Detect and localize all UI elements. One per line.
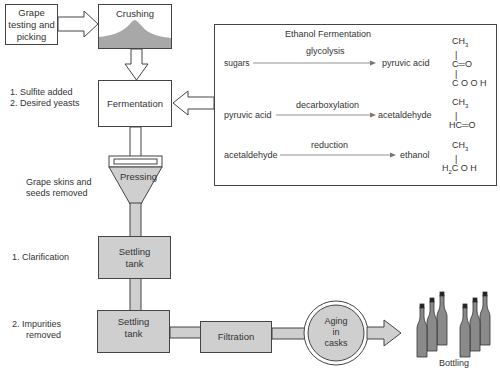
reaction2-substrate: pyruvic acid bbox=[224, 110, 272, 121]
arrow-ethanol-to-fermentation bbox=[173, 91, 214, 115]
grape-testing-box: Grape testing and picking bbox=[5, 4, 58, 45]
reaction1-substrate: sugars bbox=[224, 58, 250, 69]
grape-label-line1: Grape bbox=[18, 7, 44, 19]
press-plate-inner bbox=[114, 159, 157, 164]
pipe-fermentation-to-pressing bbox=[130, 127, 141, 157]
reaction2-product: acetaldehyde bbox=[378, 110, 432, 121]
settling-tank-2-line2: tank bbox=[125, 328, 143, 340]
reaction1-process: glycolysis bbox=[306, 46, 345, 57]
ethanol-title: Ethanol Fermentation bbox=[285, 29, 371, 40]
settling-tank-2: Settling tank bbox=[97, 310, 170, 353]
crushing-label: Crushing bbox=[116, 8, 154, 20]
note-clarification: 1. Clarification bbox=[12, 252, 69, 263]
aging-label: Aging in casks bbox=[306, 316, 366, 349]
reaction1-product: pyruvic acid bbox=[382, 58, 430, 69]
reaction3-product: ethanol bbox=[400, 150, 430, 161]
arrow-crushing-to-fermentation bbox=[125, 49, 148, 80]
settling-tank-1: Settling tank bbox=[98, 236, 171, 279]
note-sulfite: 1. Sulfite added bbox=[10, 87, 73, 98]
reaction3-substrate: acetaldehyde bbox=[224, 150, 278, 161]
grape-label-line2: testing and bbox=[8, 19, 54, 31]
arrow-grape-to-crushing bbox=[58, 11, 98, 37]
settling-tank-1-line1: Settling bbox=[119, 246, 151, 258]
ethanol-formula: CH3 | H2C O H bbox=[442, 140, 477, 178]
note-skins-line1: Grape skins and bbox=[26, 177, 92, 188]
note-yeasts: 2. Desired yeasts bbox=[10, 98, 80, 109]
note-impurities-line2: removed bbox=[26, 330, 61, 341]
aging-line2: in bbox=[306, 327, 366, 338]
pipe-settling-to-settling bbox=[130, 278, 141, 311]
pressing-label: Pressing bbox=[120, 171, 157, 182]
reaction2-process: decarboxylation bbox=[296, 100, 359, 111]
note-impurities-line1: 2. Impurities bbox=[12, 319, 61, 330]
settling-tank-2-line1: Settling bbox=[118, 316, 150, 328]
reaction3-process: reduction bbox=[311, 140, 348, 151]
aging-line1: Aging bbox=[306, 316, 366, 327]
bottles-group-2 bbox=[460, 292, 490, 357]
pyruvic-acid-formula: CH3 | C═O | C O O H bbox=[452, 36, 487, 89]
grape-label-line3: picking bbox=[17, 31, 47, 43]
pipe-filtration-to-aging bbox=[272, 328, 306, 339]
crushing-box: Crushing bbox=[98, 4, 172, 49]
note-skins-line2: seeds removed bbox=[26, 188, 88, 199]
settling-tank-1-line2: tank bbox=[126, 258, 144, 270]
aging-line3: casks bbox=[306, 338, 366, 349]
filtration-box: Filtration bbox=[200, 321, 272, 353]
fermentation-box: Fermentation bbox=[98, 80, 172, 127]
pipe-settling-to-filtration bbox=[170, 327, 201, 338]
acetaldehyde-formula: CH3 | HC═O bbox=[449, 97, 475, 131]
bottles-group-1 bbox=[417, 292, 447, 357]
pipe-pressing-to-settling bbox=[130, 203, 141, 237]
arrow-aging-to-bottling bbox=[367, 320, 401, 346]
fermentation-label: Fermentation bbox=[107, 98, 163, 110]
filtration-label: Filtration bbox=[218, 331, 254, 343]
bottling-label: Bottling bbox=[439, 358, 469, 369]
